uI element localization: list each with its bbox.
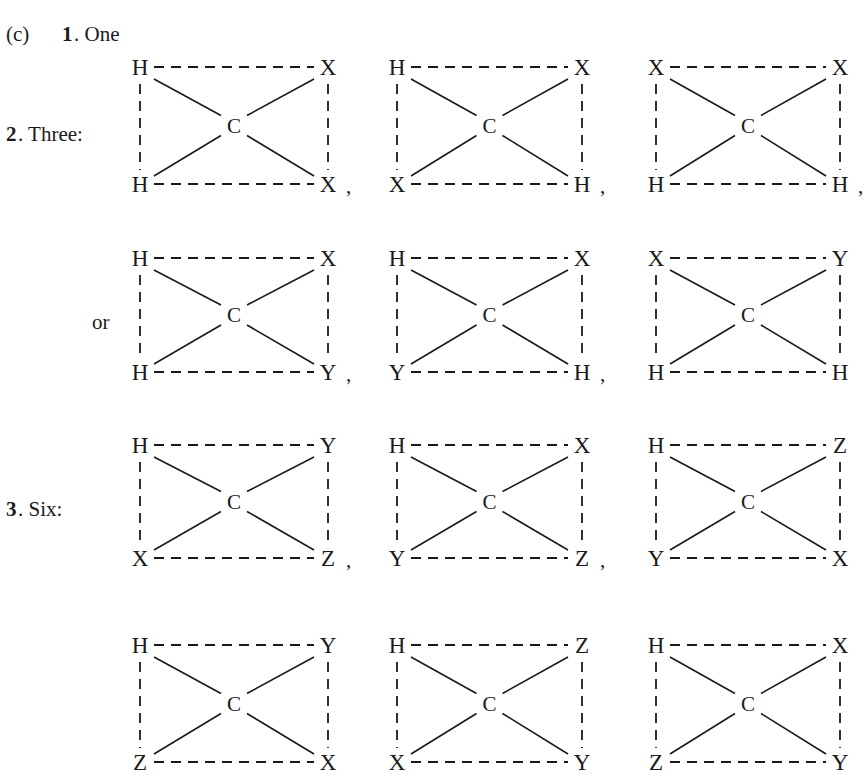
bond-bottom-left <box>670 714 735 755</box>
bond-top-right <box>761 657 826 694</box>
atom-bottom-right: Y <box>832 751 849 774</box>
atom-bottom-left: Z <box>649 751 663 774</box>
atom-carbon-center: C <box>741 693 755 714</box>
bond-top-left <box>670 657 735 694</box>
atom-top-right: X <box>832 634 849 657</box>
bond-bottom-right <box>761 714 826 755</box>
atom-top-left: H <box>648 634 665 657</box>
